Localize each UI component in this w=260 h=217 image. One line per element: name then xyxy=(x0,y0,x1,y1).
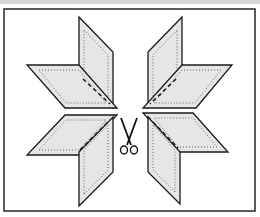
star-diagram xyxy=(0,0,260,217)
frame xyxy=(4,9,255,211)
